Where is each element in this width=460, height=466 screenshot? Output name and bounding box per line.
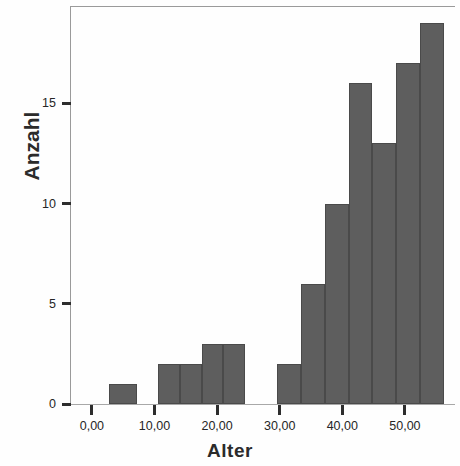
histogram-bar [325, 204, 349, 405]
histogram-bar [372, 143, 396, 404]
x-tick-label: 30,00 [250, 419, 310, 433]
histogram-bar [223, 344, 245, 404]
x-tick-mark [153, 405, 156, 415]
x-axis-line [70, 404, 455, 405]
histogram-bar [109, 384, 137, 404]
x-tick-label: 10,00 [125, 419, 185, 433]
histogram-bar [180, 364, 202, 404]
x-tick-label: 20,00 [187, 419, 247, 433]
y-tick-label: 15 [14, 97, 56, 109]
y-axis-title: Anzahl [19, 96, 45, 196]
x-tick-mark [216, 405, 219, 415]
y-tick-mark [62, 302, 71, 305]
histogram-bar [396, 63, 420, 404]
x-tick-mark [341, 405, 344, 415]
x-tick-label: 50,00 [375, 419, 435, 433]
x-axis-title: Alter [0, 440, 460, 462]
x-tick-mark [403, 405, 406, 415]
y-tick-label: 5 [14, 298, 56, 310]
histogram-bar [301, 284, 325, 404]
y-tick-label: 10 [14, 198, 56, 210]
histogram-bar [158, 364, 180, 404]
x-tick-label: 40,00 [312, 419, 372, 433]
histogram-bar [277, 364, 301, 404]
y-tick-mark [62, 202, 71, 205]
histogram-bar [202, 344, 223, 404]
y-tick-mark [62, 102, 71, 105]
histogram-bar [420, 23, 444, 404]
x-tick-mark [90, 405, 93, 415]
y-tick-label: 0 [14, 398, 56, 410]
histogram-bar [349, 83, 373, 404]
x-tick-label: 0,00 [62, 419, 122, 433]
y-tick-mark [62, 403, 71, 406]
histogram-chart: Anzahl Alter 051015 0,0010,0020,0030,004… [0, 0, 460, 466]
x-tick-mark [278, 405, 281, 415]
